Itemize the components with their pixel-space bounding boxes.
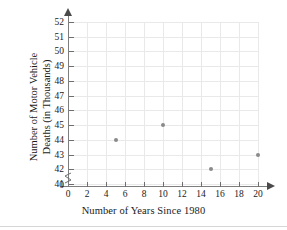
gridline-vertical (87, 22, 88, 184)
y-axis-title-line1: Number of Motor Vehicle (28, 53, 39, 162)
data-point (256, 153, 260, 157)
x-tick-mark (106, 182, 107, 187)
y-tick-mark (69, 51, 74, 52)
x-tick-mark (201, 182, 202, 187)
y-axis-title: Number of Motor Vehicle Deaths (in Thous… (14, 20, 64, 195)
gridline-vertical (220, 22, 221, 184)
x-tick-mark (144, 182, 145, 187)
x-axis-line (62, 186, 273, 187)
gridline-vertical (125, 22, 126, 184)
x-tick-mark (258, 182, 259, 187)
x-tick-mark (163, 182, 164, 187)
scatter-chart: 4142434445464748495051520 02468101214161… (0, 0, 287, 230)
y-axis-line (68, 14, 69, 186)
y-tick-mark (69, 96, 74, 97)
gridline-vertical (258, 22, 259, 184)
x-tick-mark (220, 182, 221, 187)
gridline-vertical (201, 22, 202, 184)
x-tick-mark (125, 182, 126, 187)
y-tick-mark (69, 140, 74, 141)
gridline-vertical (182, 22, 183, 184)
y-axis-title-line2: Deaths (in Thousands) (41, 60, 52, 155)
plot-area (68, 22, 258, 184)
y-axis-arrow-icon (64, 8, 72, 16)
data-point (114, 138, 118, 142)
x-tick-mark (239, 182, 240, 187)
y-axis-break-icon (64, 172, 73, 184)
y-tick-mark (69, 125, 74, 126)
gridline-vertical (106, 22, 107, 184)
y-tick-mark (69, 155, 74, 156)
y-tick-mark (69, 169, 74, 170)
gridline-vertical (239, 22, 240, 184)
bottom-divider (0, 226, 287, 227)
x-axis-title: Number of Years Since 1980 (0, 205, 287, 216)
y-tick-mark (69, 184, 74, 185)
gridline-vertical (163, 22, 164, 184)
y-tick-mark (69, 22, 74, 23)
gridline-vertical (144, 22, 145, 184)
x-tick-label: 20 (246, 189, 270, 199)
y-tick-mark (69, 81, 74, 82)
x-tick-mark (87, 182, 88, 187)
y-tick-mark (69, 110, 74, 111)
x-tick-mark (182, 182, 183, 187)
y-tick-mark (69, 37, 74, 38)
y-tick-mark (69, 66, 74, 67)
data-point (209, 167, 213, 171)
